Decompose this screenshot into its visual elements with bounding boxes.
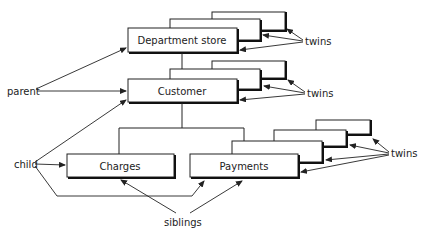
payments-label: Payments — [220, 161, 269, 172]
twins-annotation-top: twins — [305, 36, 331, 47]
payments-node: Payments — [190, 154, 299, 178]
twins-annotation-bottom: twins — [391, 148, 417, 159]
connector-customer-children — [119, 103, 244, 154]
hierarchy-diagram: Department store Customer Payments Charg… — [0, 0, 426, 237]
siblings-arrows — [121, 180, 242, 213]
customer-node: Customer — [128, 79, 238, 103]
twins-annotation-middle: twins — [307, 88, 333, 99]
child-annotation: child — [14, 159, 38, 170]
parent-arrows — [36, 48, 126, 91]
charges-node: Charges — [67, 154, 175, 178]
department-store-node: Department store — [128, 28, 238, 53]
siblings-annotation: siblings — [164, 217, 202, 228]
customer-label: Customer — [158, 86, 207, 97]
department-store-label: Department store — [138, 35, 227, 46]
parent-annotation: parent — [7, 86, 40, 97]
charges-label: Charges — [99, 161, 140, 172]
